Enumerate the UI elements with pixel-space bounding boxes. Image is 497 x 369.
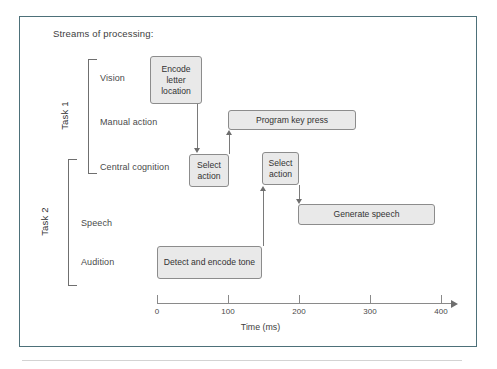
stream-label-manual-action: Manual action [100, 117, 157, 127]
axis-tick-label-300: 300 [355, 307, 385, 316]
axis-tick-label-400: 400 [426, 307, 456, 316]
process-box-select-action-2: Select action [262, 152, 299, 185]
stream-label-speech: Speech [81, 218, 112, 228]
stream-label-audition: Audition [81, 257, 114, 267]
process-box-program-key-press: Program key press [228, 110, 356, 130]
axis-tick-0 [157, 295, 158, 303]
arrow-head-select-1-to-program-key-icon [226, 130, 232, 135]
arrow-head-encode-to-select-1-icon [194, 148, 200, 153]
stream-label-central-cognition: Central cognition [100, 162, 169, 172]
process-box-select-action-1: Select action [189, 154, 229, 187]
axis-tick-label-200: 200 [284, 307, 314, 316]
task-1-label: Task 1 [59, 96, 70, 136]
process-box-detect-and-encode-tone: Detect and encode tone [157, 246, 262, 279]
axis-tick-label-0: 0 [142, 307, 172, 316]
caption-divider [22, 360, 462, 361]
task-2-label: Task 2 [39, 202, 50, 242]
axis-tick-300 [370, 295, 371, 303]
task-2-bracket [68, 159, 77, 286]
stream-label-vision: Vision [100, 73, 125, 83]
arrow-head-detect-tone-to-select-2-icon [260, 186, 266, 191]
time-axis-line [157, 303, 452, 304]
connector-select-2-to-generate-speech [299, 185, 300, 200]
axis-tick-400 [441, 295, 442, 303]
arrow-head-select-2-to-generate-speech-icon [296, 199, 302, 204]
axis-title: Time (ms) [0, 322, 497, 332]
process-box-generate-speech: Generate speech [298, 204, 435, 225]
axis-tick-label-100: 100 [213, 307, 243, 316]
axis-tick-100 [228, 295, 229, 303]
connector-select-1-to-program-key [229, 135, 230, 154]
axis-tick-200 [299, 295, 300, 303]
page-title: Streams of processing: [53, 28, 153, 39]
connector-encode-to-select-1 [197, 104, 198, 148]
task-1-bracket [88, 59, 97, 174]
process-box-encode-letter-location: Encode letter location [150, 56, 202, 104]
connector-detect-tone-to-select-2 [263, 191, 264, 246]
